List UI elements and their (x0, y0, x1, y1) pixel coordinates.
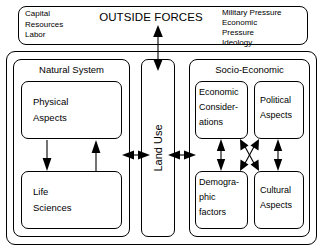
political-aspects-label: Political Aspects (260, 93, 304, 123)
life-sciences-label: Life Sciences (33, 184, 72, 216)
outside-forces-right-inputs: Military Pressure Economic Pressure Ideo… (222, 8, 282, 48)
outside-forces-title: OUTSIDE FORCES (86, 11, 216, 23)
socio-economic-title: Socio-Economic (189, 64, 310, 75)
demographic-factors-label: Demogra- phic factors (199, 175, 247, 220)
cultural-aspects-label: Cultural Aspects (260, 183, 304, 213)
outside-forces-left-inputs: Capital Resources Labor (25, 9, 63, 41)
land-use-label-wrapper: Land Use (141, 59, 175, 237)
natural-system-title: Natural System (13, 64, 130, 75)
systems-diagram: Capital Resources Labor OUTSIDE FORCES M… (0, 0, 323, 251)
physical-aspects-label: Physical Aspects (33, 94, 68, 126)
economic-considerations-label: Economic Consider- ations (199, 85, 247, 130)
land-use-label: Land Use (152, 124, 164, 171)
